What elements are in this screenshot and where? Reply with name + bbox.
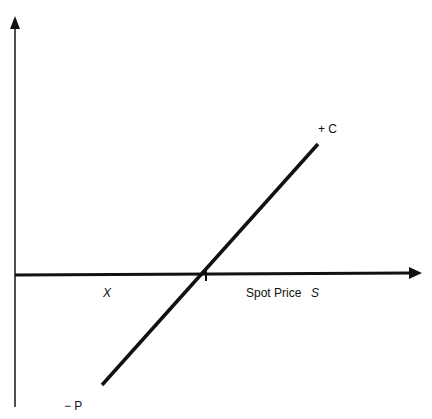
payoff-diagram-canvas [0,0,432,419]
x-axis [15,273,412,275]
payoff-line [102,144,318,385]
call-label: + C [318,123,337,135]
x-axis-label: Spot Price [246,287,301,299]
x-axis-arrowhead-icon [409,267,422,279]
strike-label: X [103,287,111,299]
put-label: − P [64,400,82,412]
x-axis-symbol: S [311,287,319,299]
y-axis-arrowhead-icon [10,16,20,29]
